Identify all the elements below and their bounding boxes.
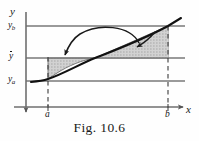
figure-caption-row: Fig. 10.6	[0, 118, 199, 136]
y-bar-overbar-wrap: y	[9, 52, 13, 62]
x-axis-label: x	[186, 104, 191, 115]
y-bar-tick-label: y	[9, 52, 13, 62]
y-bar-base: y	[9, 51, 13, 61]
y-a-subscript: a	[12, 78, 16, 86]
figure-container: y x yb y ya a b Fig. 10.6	[0, 0, 199, 141]
y-b-tick-label: yb	[8, 21, 16, 31]
y-b-subscript: b	[12, 24, 16, 32]
overbar-rule	[10, 51, 12, 52]
y-a-tick-label: ya	[8, 75, 16, 85]
y-axis-label: y	[10, 6, 15, 17]
figure-caption: Fig. 10.6	[74, 120, 126, 135]
